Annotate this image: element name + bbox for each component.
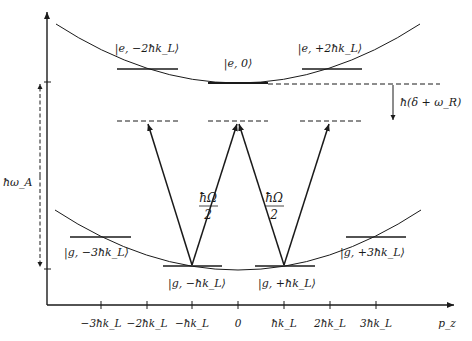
x-tick-labels: −3ħk_L −2ħk_L −ħk_L 0 ħk_L 2ħk_L 3ħk_L <box>81 317 392 330</box>
rabi-label-right: ħΩ 2 <box>265 191 284 222</box>
ground-state-label: |g, +3ħk_L⟩ <box>340 246 405 260</box>
excited-levels: |e, −2ħk_L⟩ |e, 0⟩ |e, +2ħk_L⟩ <box>115 42 362 83</box>
rabi-numerator: ħΩ <box>199 191 217 205</box>
energy-level-diagram: −3ħk_L −2ħk_L −ħk_L 0 ħk_L 2ħk_L 3ħk_L p… <box>0 0 472 341</box>
ground-state-label: |g, +ħk_L⟩ <box>258 277 316 291</box>
excited-state-label: |e, +2ħk_L⟩ <box>298 42 362 56</box>
energy-gap-label: ħω_A <box>3 176 33 189</box>
rabi-denominator: 2 <box>203 208 212 222</box>
x-tick-label: 0 <box>235 317 242 329</box>
x-tick-label: −2ħk_L <box>127 317 168 330</box>
rabi-numerator: ħΩ <box>265 191 283 205</box>
excited-state-parabola <box>56 24 420 83</box>
rabi-label-left: ħΩ 2 <box>199 191 218 222</box>
detuning-label: ħ(δ + ω_R) <box>400 96 461 109</box>
excited-state-label: |e, −2ħk_L⟩ <box>115 42 179 56</box>
ground-state-parabola <box>55 210 421 270</box>
ground-levels: |g, −3ħk_L⟩ |g, −ħk_L⟩ |g, +ħk_L⟩ |g, +3… <box>64 237 406 291</box>
x-tick-label: −3ħk_L <box>81 317 122 330</box>
x-tick-label: −ħk_L <box>175 317 209 330</box>
excited-state-label: |e, 0⟩ <box>224 57 253 71</box>
x-axis-label: p_z <box>438 317 456 330</box>
rabi-denominator: 2 <box>269 208 278 222</box>
atomic-energy-gap-indicator: ħω_A <box>3 84 40 267</box>
ground-state-label: |g, −ħk_L⟩ <box>168 277 226 291</box>
transition-arrows <box>148 124 329 265</box>
x-tick-label: ħk_L <box>271 317 296 330</box>
transition-arrow <box>148 124 192 265</box>
ground-state-label: |g, −3ħk_L⟩ <box>64 246 129 260</box>
x-tick-label: 2ħk_L <box>313 317 346 330</box>
transition-arrow <box>284 124 329 265</box>
x-tick-label: 3ħk_L <box>360 317 392 330</box>
